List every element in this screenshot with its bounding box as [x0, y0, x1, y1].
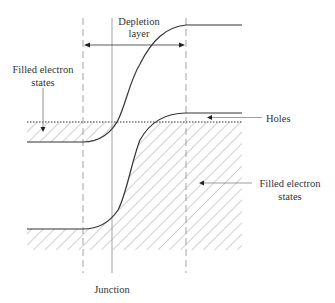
filled-right-label-1: Filled electron — [260, 178, 322, 189]
holes-pointer — [207, 115, 262, 120]
depletion-label-1: Depletion — [118, 16, 160, 27]
junction-label: Junction — [94, 284, 130, 295]
filled-states-left-hatch — [27, 122, 117, 142]
depletion-label-2: layer — [129, 28, 150, 39]
filled-left-label-2: states — [31, 77, 54, 88]
band-diagram: Depletion layer Filled electron states H… — [0, 0, 335, 303]
depletion-width-arrow — [84, 43, 185, 48]
filled-left-label-1: Filled electron — [13, 64, 75, 75]
holes-label: Holes — [266, 113, 291, 124]
filled-right-label-2: states — [278, 191, 301, 202]
